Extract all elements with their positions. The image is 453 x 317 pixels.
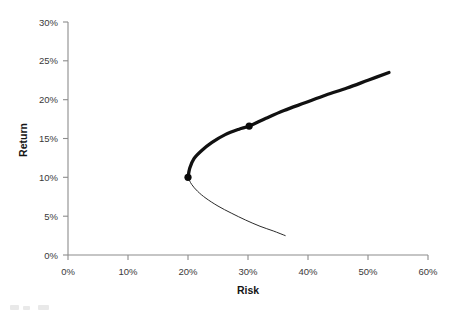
y-tick-label: 10% — [39, 172, 59, 183]
y-tick-label: 5% — [44, 211, 58, 222]
chart-canvas: 30% 25% 20% 15% 10% 5% 0% 0% 10% 20% 30%… — [0, 0, 453, 317]
tangency-portfolio-marker — [246, 122, 253, 129]
x-tick-label: 40% — [298, 266, 318, 277]
y-tick-label: 0% — [44, 250, 58, 261]
y-axis-ticks — [63, 22, 68, 255]
x-axis-ticks — [68, 255, 428, 260]
y-tick-label: 15% — [39, 133, 59, 144]
y-tick-label: 25% — [39, 55, 59, 66]
y-axis-tick-labels: 30% 25% 20% 15% 10% 5% 0% — [39, 17, 59, 261]
efficient-frontier-chart: 30% 25% 20% 15% 10% 5% 0% 0% 10% 20% 30%… — [0, 0, 453, 317]
y-tick-label: 20% — [39, 94, 59, 105]
x-tick-label: 10% — [118, 266, 138, 277]
efficient-frontier-curve — [188, 72, 389, 177]
x-tick-label: 50% — [358, 266, 378, 277]
x-tick-label: 20% — [178, 266, 198, 277]
y-axis-title: Return — [17, 123, 29, 157]
minimum-variance-portfolio-marker — [184, 174, 191, 181]
portfolio-markers — [184, 122, 252, 180]
y-tick-label: 30% — [39, 17, 59, 28]
x-axis-tick-labels: 0% 10% 20% 30% 40% 50% 60% — [61, 266, 438, 277]
x-tick-label: 30% — [238, 266, 258, 277]
x-tick-label: 60% — [418, 266, 438, 277]
inefficient-frontier-curve — [188, 177, 285, 235]
x-tick-label: 0% — [61, 266, 75, 277]
x-axis-title: Risk — [237, 284, 259, 296]
scan-artifact — [10, 305, 49, 310]
